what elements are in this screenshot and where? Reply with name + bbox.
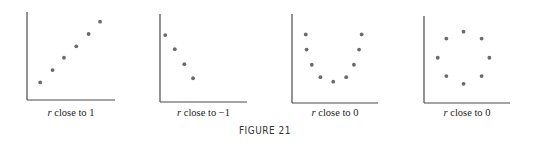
scatter-panel-4: r close to 0: [424, 16, 510, 118]
caption-text: close to 1: [52, 107, 95, 118]
caption-text: close to 0: [316, 107, 359, 118]
data-point: [480, 37, 484, 41]
data-point: [480, 74, 484, 78]
scatter-panel-3: r close to 0: [292, 14, 378, 118]
data-point: [436, 56, 440, 60]
data-point: [318, 75, 322, 79]
panel-caption: r close to 1: [48, 107, 95, 118]
data-point: [182, 62, 186, 66]
data-point: [74, 44, 78, 48]
scatter-panel-2: r close to −1: [160, 14, 247, 118]
data-point: [357, 48, 361, 52]
panel-caption: r close to 0: [312, 107, 359, 118]
panel-caption: r close to −1: [177, 107, 230, 118]
data-point: [62, 56, 66, 60]
data-point: [87, 32, 91, 36]
data-point: [487, 56, 491, 60]
data-point: [163, 33, 167, 37]
panel-caption: r close to 0: [444, 107, 491, 118]
figure-label: FIGURE 21: [239, 125, 291, 136]
data-point: [191, 76, 195, 80]
data-point: [51, 68, 55, 72]
data-point: [462, 30, 466, 34]
data-point: [305, 48, 309, 52]
scatter-panel-1: r close to 1: [27, 12, 115, 118]
data-point: [38, 81, 42, 85]
data-point: [444, 74, 448, 78]
caption-text: close to 0: [448, 107, 491, 118]
data-point: [352, 63, 356, 67]
data-point: [360, 33, 364, 37]
caption-text: close to −1: [181, 107, 230, 118]
scatter-figure: FIGURE 21 r close to 1r close to −1r clo…: [0, 0, 535, 149]
data-point: [444, 37, 448, 41]
data-point: [462, 82, 466, 86]
data-point: [98, 20, 102, 24]
data-point: [344, 75, 348, 79]
data-point: [310, 63, 314, 67]
data-point: [304, 33, 308, 37]
data-point: [331, 80, 335, 84]
data-point: [173, 47, 177, 51]
